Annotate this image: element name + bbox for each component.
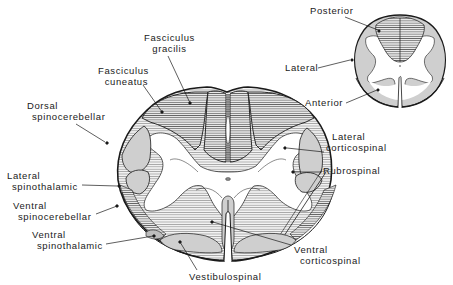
label-line: spinothalamic (7, 182, 78, 193)
label-line: cuneatus (98, 77, 149, 88)
label-line: Lateral (7, 171, 78, 182)
label-ventral-corticospinal: Ventral corticospinal (294, 245, 361, 266)
label-line: gracilis (144, 44, 195, 55)
label-fasciculus-cuneatus: Fasciculus cuneatus (98, 66, 149, 87)
inset-cross-section (318, 15, 445, 107)
label-line: Ventral (32, 230, 103, 241)
label-line: Lateral (326, 132, 387, 143)
label-line: Vestibulospinal (189, 272, 261, 283)
spinal-cord-diagram: Fasciculus gracilis Fasciculus cuneatus … (0, 0, 453, 285)
label-inset-lateral: Lateral (285, 63, 318, 74)
dorsal-spinocerebellar-tract (122, 126, 151, 172)
label-ventral-spinocerebellar: Ventral spinocerebellar (13, 201, 91, 222)
label-line: Ventral (294, 245, 361, 256)
label-inset-posterior: Posterior (310, 6, 353, 17)
label-line: spinothalamic (32, 241, 103, 252)
label-line: corticospinal (294, 256, 361, 267)
label-line: Fasciculus (98, 66, 149, 77)
label-line: Ventral (13, 201, 91, 212)
label-line: spinocerebellar (27, 112, 105, 123)
label-inset-anterior: Anterior (305, 98, 343, 109)
label-line: Dorsal (27, 101, 105, 112)
central-canal (226, 178, 231, 181)
fasciculus-gracilis-left (204, 91, 226, 162)
label-line: Rubrospinal (323, 166, 380, 177)
label-lateral-corticospinal: Lateral corticospinal (326, 132, 387, 153)
label-fasciculus-gracilis: Fasciculus gracilis (144, 33, 195, 54)
label-line: spinocerebellar (13, 212, 91, 223)
label-rubrospinal: Rubrospinal (323, 166, 380, 177)
label-dorsal-spinocerebellar: Dorsal spinocerebellar (27, 101, 105, 122)
label-line: corticospinal (326, 143, 387, 154)
fasciculus-gracilis-right (230, 91, 252, 162)
main-cross-section (118, 87, 336, 261)
label-vestibulospinal: Vestibulospinal (189, 272, 261, 283)
label-line: Fasciculus (144, 33, 195, 44)
label-lateral-spinothalamic: Lateral spinothalamic (7, 171, 78, 192)
label-ventral-spinothalamic: Ventral spinothalamic (32, 230, 103, 251)
